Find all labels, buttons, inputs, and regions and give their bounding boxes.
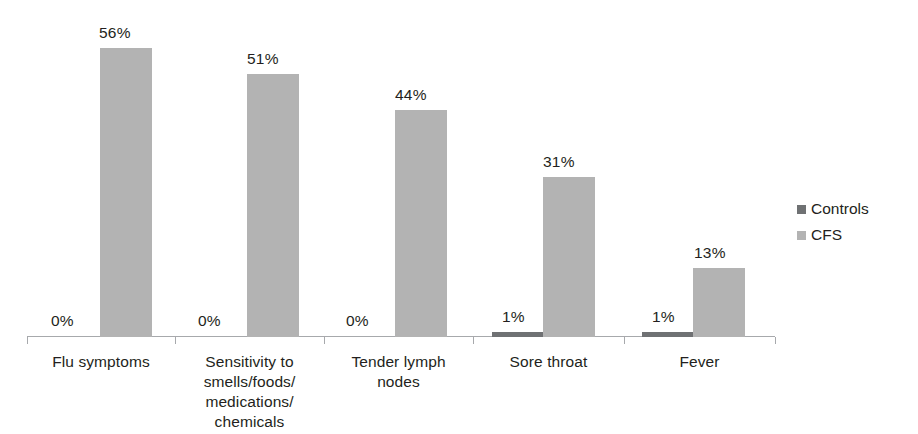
bar-value-controls-tender-lymph-nodes: 0% <box>346 313 369 329</box>
bar-controls-sore-throat[interactable] <box>492 332 543 337</box>
legend-label-controls: Controls <box>811 201 869 217</box>
chart-legend: Controls CFS <box>797 196 912 248</box>
bar-cfs-sensitivity[interactable] <box>247 74 299 337</box>
bar-cfs-tender-lymph-nodes[interactable] <box>395 110 447 337</box>
bar-cfs-sore-throat[interactable] <box>543 177 595 337</box>
x-label-line: Flu symptoms <box>15 352 187 372</box>
x-label-flu-symptoms: Flu symptoms <box>15 352 187 372</box>
bar-value-cfs-sore-throat: 31% <box>543 154 575 170</box>
x-label-sore-throat: Sore throat <box>468 352 629 372</box>
x-axis-end-tick <box>775 337 776 344</box>
bars-row: 0% 44% <box>324 37 473 337</box>
bar-value-cfs-sensitivity: 51% <box>247 51 279 67</box>
legend-label-cfs: CFS <box>811 227 842 243</box>
x-label-line: Sore throat <box>468 352 629 372</box>
bar-value-controls-fever: 1% <box>652 309 675 325</box>
legend-swatch-icon-cfs <box>797 231 806 240</box>
bars-row: 0% 51% <box>175 37 324 337</box>
bar-cfs-flu-symptoms[interactable] <box>100 48 152 337</box>
bar-controls-fever[interactable] <box>642 332 693 337</box>
category-group-sensitivity: 0% 51% Sensitivity to smells/foods/ medi… <box>175 0 324 345</box>
bar-chart: 0% 56% Flu symptoms 0% 51% Sensitivity t… <box>0 0 918 434</box>
x-label-sensitivity: Sensitivity to smells/foods/ medications… <box>169 352 330 432</box>
category-group-sore-throat: 1% 31% Sore throat <box>473 0 624 345</box>
category-group-flu-symptoms: 0% 56% Flu symptoms <box>27 0 175 345</box>
bars-row: 1% 31% <box>473 37 624 337</box>
bar-value-cfs-fever: 13% <box>694 245 726 261</box>
x-label-tender-lymph-nodes: Tender lymph nodes <box>319 352 478 392</box>
bar-value-controls-sore-throat: 1% <box>502 309 525 325</box>
category-group-fever: 1% 13% Fever <box>624 0 775 345</box>
bars-row: 1% 13% <box>624 37 775 337</box>
x-label-line: Fever <box>619 352 780 372</box>
x-label-fever: Fever <box>619 352 780 372</box>
bar-value-cfs-flu-symptoms: 56% <box>99 25 131 41</box>
bar-cfs-fever[interactable] <box>693 268 745 337</box>
bar-value-cfs-tender-lymph-nodes: 44% <box>395 87 427 103</box>
x-label-line: chemicals <box>169 412 330 432</box>
x-label-line: Sensitivity to <box>169 352 330 372</box>
legend-swatch-icon-controls <box>797 205 806 214</box>
x-label-line: smells/foods/ <box>169 372 330 392</box>
plot-area: 0% 56% Flu symptoms 0% 51% Sensitivity t… <box>0 0 790 345</box>
category-group-tender-lymph-nodes: 0% 44% Tender lymph nodes <box>324 0 473 345</box>
x-label-line: nodes <box>319 372 478 392</box>
x-label-line: Tender lymph <box>319 352 478 372</box>
x-label-line: medications/ <box>169 392 330 412</box>
legend-item-controls[interactable]: Controls <box>797 196 912 222</box>
legend-item-cfs[interactable]: CFS <box>797 222 912 248</box>
bar-value-controls-flu-symptoms: 0% <box>51 313 74 329</box>
bar-value-controls-sensitivity: 0% <box>198 313 221 329</box>
bars-row: 0% 56% <box>27 37 175 337</box>
